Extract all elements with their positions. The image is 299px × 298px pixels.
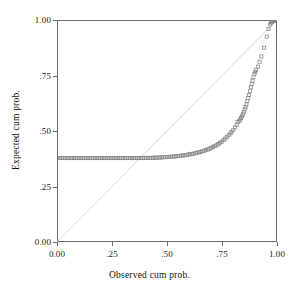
data-point-marker <box>265 35 268 38</box>
x-axis-title: Observed cum prob. <box>0 270 299 280</box>
data-point-marker <box>253 72 256 75</box>
pp-plot-chart: 0.00.25.50.751.00 0.00.25.50.751.00 Obse… <box>0 0 299 298</box>
x-tick-label: 1.00 <box>269 249 285 259</box>
data-point-marker <box>255 68 258 71</box>
y-tick-label: 0.00 <box>18 237 51 247</box>
y-tick-mark <box>53 187 57 188</box>
diagonal-reference-line <box>57 20 277 242</box>
x-tick-label: .25 <box>106 249 118 259</box>
y-tick-mark <box>53 20 57 21</box>
data-points-group <box>57 20 277 160</box>
data-point-marker <box>249 86 252 89</box>
x-tick-mark <box>277 242 278 246</box>
x-tick-mark <box>167 242 168 246</box>
data-point-marker <box>241 113 244 116</box>
y-tick-label: .25 <box>18 182 51 192</box>
y-tick-label: .50 <box>18 126 51 136</box>
x-tick-mark <box>112 242 113 246</box>
x-tick-mark <box>222 242 223 246</box>
reference-line <box>57 20 277 242</box>
data-point-marker <box>256 65 259 68</box>
y-tick-mark <box>53 131 57 132</box>
data-point-marker <box>258 60 261 63</box>
y-tick-label: 1.00 <box>18 15 51 25</box>
data-point-marker <box>250 83 253 86</box>
data-point-marker <box>246 100 249 103</box>
data-point-marker <box>248 93 251 96</box>
data-point-marker <box>262 46 265 49</box>
data-point-marker <box>254 70 257 73</box>
x-tick-label: 0.00 <box>49 249 65 259</box>
y-axis-title: Expected cum prob. <box>11 60 21 200</box>
x-tick-label: .75 <box>216 249 228 259</box>
data-point-marker <box>260 55 263 58</box>
x-tick-label: .50 <box>161 249 173 259</box>
data-point-marker <box>247 97 250 100</box>
y-tick-label: .75 <box>18 71 51 81</box>
plot-canvas <box>57 20 277 242</box>
data-point-marker <box>248 90 251 93</box>
x-tick-mark <box>57 242 58 246</box>
data-point-marker <box>252 76 255 79</box>
data-point-marker <box>251 79 254 82</box>
y-tick-mark <box>53 76 57 77</box>
